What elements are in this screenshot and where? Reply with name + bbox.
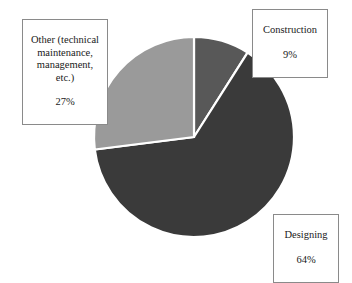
- pie-label-other-value: 27%: [27, 96, 103, 108]
- pie-label-other-name: Other (technical maintenance, management…: [27, 34, 103, 84]
- pie-label-construction: Construction 9%: [252, 9, 328, 78]
- pie-label-designing-value: 64%: [278, 254, 334, 266]
- pie-label-other: Other (technical maintenance, management…: [22, 19, 108, 125]
- pie-label-designing-name: Designing: [278, 229, 334, 241]
- pie-label-construction-value: 9%: [257, 49, 323, 61]
- pie-slice-other: [94, 37, 194, 150]
- pie-label-construction-name: Construction: [257, 24, 323, 36]
- pie-label-designing: Designing 64%: [273, 214, 339, 283]
